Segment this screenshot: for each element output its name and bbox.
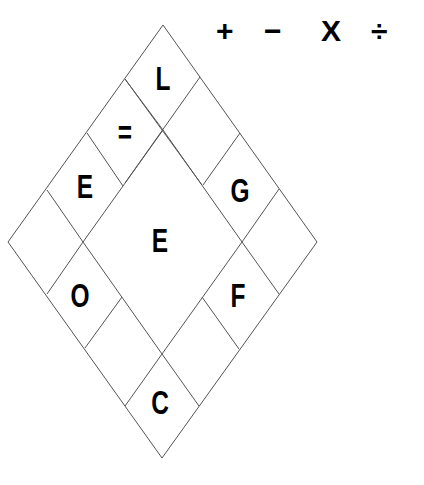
cell-lower-right-1: F bbox=[228, 276, 249, 315]
cell-top: L bbox=[153, 59, 174, 98]
cell-upper-left-2: E bbox=[74, 167, 97, 206]
multiply-operator: X bbox=[321, 14, 341, 48]
cell-upper-left-1: = bbox=[115, 113, 135, 152]
plus-operator: + bbox=[216, 14, 234, 48]
cell-lower-left-1: O bbox=[67, 276, 93, 315]
cell-upper-right-2: G bbox=[227, 171, 253, 210]
divide-operator: ÷ bbox=[371, 14, 387, 48]
diamond-grid bbox=[0, 0, 424, 485]
minus-operator: − bbox=[264, 14, 282, 48]
cell-bottom: C bbox=[148, 383, 173, 422]
cell-center: E bbox=[149, 221, 172, 260]
